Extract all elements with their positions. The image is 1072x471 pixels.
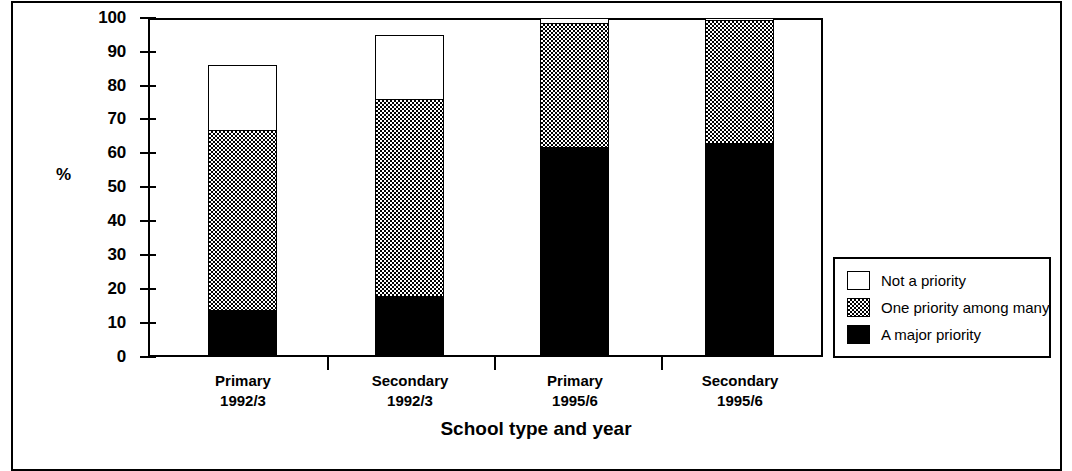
legend-item-one-priority-among-many: One priority among many	[847, 294, 1049, 321]
y-tick-label-50: 50	[107, 177, 126, 197]
legend-swatch-black-square	[847, 325, 870, 344]
x-label-type: Secondary	[372, 371, 449, 391]
x-axis: Primary 1992/3 Secondary 1992/3 Primary …	[148, 357, 823, 417]
legend-label: A major priority	[881, 326, 981, 343]
x-label-year: 1992/3	[215, 391, 271, 411]
x-separator-tick-3	[661, 357, 663, 370]
segment-one-priority-among-many	[375, 99, 444, 296]
y-tick-label-10: 10	[107, 313, 126, 333]
segment-one-priority-among-many	[208, 130, 277, 310]
y-tick-label-20: 20	[107, 279, 126, 299]
segment-a-major-priority	[208, 310, 277, 357]
segment-a-major-priority	[705, 143, 774, 357]
y-tick-label-70: 70	[107, 109, 126, 129]
y-tick-label-40: 40	[107, 211, 126, 231]
legend-item-not-a-priority: Not a priority	[847, 267, 1049, 294]
bar-primary-1995-6	[540, 18, 609, 357]
x-separator-tick-2	[494, 357, 496, 370]
x-label-type: Primary	[215, 371, 271, 391]
legend: Not a priority One priority among many A…	[833, 257, 1051, 358]
legend-swatch-checkered-square	[847, 298, 870, 317]
legend-swatch-white-square	[847, 271, 870, 290]
plot-area	[148, 18, 823, 357]
y-tick-label-30: 30	[107, 245, 126, 265]
legend-item-a-major-priority: A major priority	[847, 321, 1049, 348]
y-tick-label-0: 0	[117, 347, 126, 367]
segment-not-a-priority	[208, 65, 277, 129]
y-axis-title: %	[56, 165, 71, 185]
legend-label: One priority among many	[881, 299, 1049, 316]
x-label-year: 1992/3	[372, 391, 449, 411]
x-label-secondary-1995-6: Secondary 1995/6	[702, 371, 779, 411]
x-label-year: 1995/6	[547, 391, 603, 411]
x-label-primary-1992-3: Primary 1992/3	[215, 371, 271, 411]
x-label-type: Primary	[547, 371, 603, 391]
x-axis-title: School type and year	[0, 418, 1072, 440]
legend-label: Not a priority	[881, 272, 966, 289]
bar-primary-1992-3	[208, 65, 277, 357]
x-label-primary-1995-6: Primary 1995/6	[547, 371, 603, 411]
y-tick-label-90: 90	[107, 42, 126, 62]
x-label-secondary-1992-3: Secondary 1992/3	[372, 371, 449, 411]
y-axis: % 100 90 80 70 60 50 40 30 20 10 0	[0, 0, 148, 375]
bar-secondary-1992-3	[375, 35, 444, 357]
y-tick-label-60: 60	[107, 143, 126, 163]
x-label-type: Secondary	[702, 371, 779, 391]
y-tick-label-100: 100	[98, 8, 126, 28]
segment-not-a-priority	[375, 35, 444, 99]
y-tick-label-80: 80	[107, 76, 126, 96]
segment-a-major-priority	[540, 147, 609, 357]
segment-one-priority-among-many	[705, 20, 774, 144]
bar-secondary-1995-6	[705, 18, 774, 357]
segment-a-major-priority	[375, 296, 444, 357]
segment-one-priority-among-many	[540, 23, 609, 147]
x-separator-tick-1	[327, 357, 329, 370]
x-label-year: 1995/6	[702, 391, 779, 411]
